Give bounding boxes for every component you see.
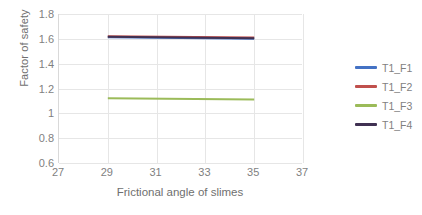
legend-item[interactable]: T1_F1 [355,58,422,77]
legend-label: T1_F1 [382,62,412,74]
x-axis-tick-labels: 272931333537 [58,166,302,182]
legend-item[interactable]: T1_F2 [355,77,422,96]
series-line-t1_f4 [108,37,254,38]
legend-swatch-icon [355,66,377,69]
y-axis-tick-label: 1.6 [24,33,54,45]
y-axis-tick-label: 0.8 [24,132,54,144]
x-axis-tick-label: 33 [184,166,224,178]
legend-label: T1_F2 [382,81,412,93]
chart-legend: T1_F1T1_F2T1_F3T1_F4 [355,58,422,134]
gridline-horizontal [59,163,302,164]
x-axis-tick-label: 37 [282,166,322,178]
x-axis-tick-label: 35 [233,166,273,178]
series-line-t1_f3 [108,98,254,99]
x-axis-title: Frictional angle of slimes [40,186,320,198]
plot-area [58,14,302,163]
legend-label: T1_F4 [382,119,412,131]
legend-label: T1_F3 [382,100,412,112]
legend-swatch-icon [355,123,377,126]
y-axis-tick-label: 1.4 [24,58,54,70]
y-axis-tick-label: 1.8 [24,8,54,20]
legend-swatch-icon [355,85,377,88]
x-axis-tick-label: 27 [38,166,78,178]
y-axis-tick-labels: 0.60.811.21.41.61.8 [24,8,54,163]
x-axis-tick-label: 29 [87,166,127,178]
x-axis-tick-label: 31 [136,166,176,178]
gridline-vertical [303,14,304,163]
line-chart: Factor of safety 0.60.811.21.41.61.8 272… [0,0,422,215]
y-axis-tick-label: 1 [24,107,54,119]
legend-item[interactable]: T1_F4 [355,115,422,134]
y-axis-tick-label: 1.2 [24,83,54,95]
legend-swatch-icon [355,104,377,107]
plot-series-layer [59,14,303,163]
legend-item[interactable]: T1_F3 [355,96,422,115]
